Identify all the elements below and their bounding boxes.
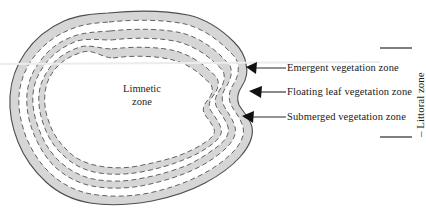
limnetic-zone-water-path: [45, 51, 215, 167]
lake-cross-section-svg: [0, 0, 426, 218]
arrowhead-emergent: [246, 62, 257, 74]
limnetic-zone-label-line2: zone: [106, 95, 178, 108]
littoral-zone-label: – Littoral zone: [414, 72, 426, 137]
limnetic-zone-label-line1: Limnetic: [106, 82, 178, 95]
arrowhead-floating: [249, 86, 262, 98]
callout-leaders-group: [242, 62, 286, 123]
limnetic-zone-label: Limnetic zone: [106, 82, 178, 108]
lake-zonation-diagram: Limnetic zone Emergent vegetation zone F…: [0, 0, 426, 218]
callout-label-floating: Floating leaf vegetation zone: [287, 86, 412, 97]
callout-label-emergent: Emergent vegetation zone: [287, 62, 399, 73]
callout-label-submerged: Submerged vegetation zone: [287, 111, 406, 122]
